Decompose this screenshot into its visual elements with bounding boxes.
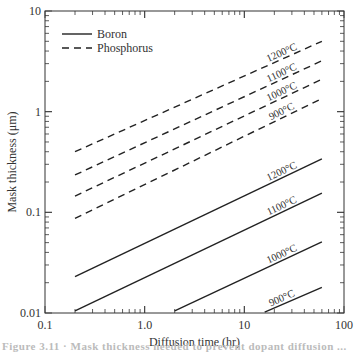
legend-label-phosphorus: Phosphorus [97,41,153,55]
y-tick-label: 1 [35,105,41,119]
plot-labels: 1200°C1100°C1000°C900°C1200°C1100°C1000°… [265,41,299,308]
line-label: 1000°C [265,242,299,266]
legend: BoronPhosphorus [62,27,153,55]
plot-series [75,41,322,312]
y-axis-title: Mask thickness (μm) [5,111,19,212]
x-tick-label: 10 [238,318,250,332]
y-tick-label: 0.1 [26,205,41,219]
y-tick-label: 0.01 [20,306,41,320]
x-tick-label: 1.0 [137,318,152,332]
plot-axes: 0.11.0101001010.10.01Diffusion time (hr)… [5,4,353,349]
x-tick-label: 0.1 [38,318,53,332]
figure-caption: Figure 3.11 · Mask thickness needed to p… [2,340,347,352]
legend-label-boron: Boron [97,27,127,41]
line-label: 1200°C [265,159,299,183]
y-tick-label: 10 [29,4,41,18]
chart: 0.11.0101001010.10.01Diffusion time (hr)… [0,0,358,353]
x-tick-label: 100 [335,318,353,332]
line-label: 1100°C [265,194,298,218]
plot-frame [45,11,344,313]
